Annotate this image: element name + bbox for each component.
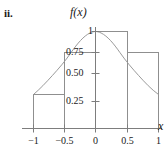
item-label: ii.: [4, 8, 13, 19]
rectangle-1: [34, 95, 65, 129]
x-tick-label-0.5: 0.5: [115, 136, 140, 146]
y-tick-label-0.75: 0.75: [66, 47, 84, 57]
x-axis-label: x: [158, 120, 163, 132]
x-tick-label-0: 0: [86, 136, 105, 146]
y-tick-label-0.25: 0.25: [66, 96, 84, 106]
y-tick-label-0.50: 0.50: [66, 68, 84, 78]
y-tick-label-1: 1: [88, 26, 93, 36]
x-tick-label-1: 1: [149, 136, 168, 146]
rectangle-3: [96, 32, 128, 129]
rectangle-2: [65, 53, 96, 129]
function-label: f(x): [70, 6, 87, 18]
x-tick-label--0.5: −0.5: [50, 136, 79, 146]
riemann-sum-figure: [0, 0, 168, 153]
x-tick-label--1: −1: [23, 136, 44, 146]
